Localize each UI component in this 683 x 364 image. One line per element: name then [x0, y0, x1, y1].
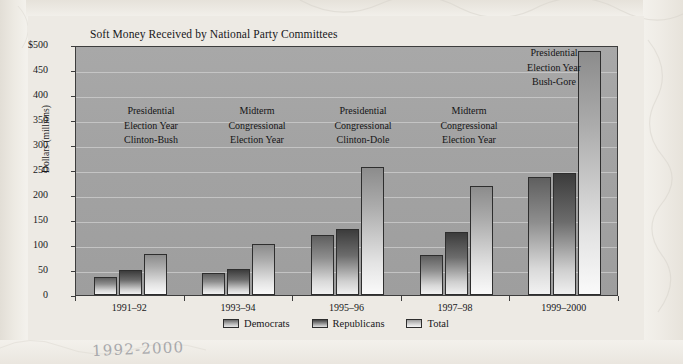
annotation-line: Election Year — [440, 133, 497, 148]
x-axis-tick-mark — [509, 296, 510, 301]
legend-swatch-total — [406, 319, 422, 328]
bar-democrats-1991-92 — [94, 277, 117, 295]
legend-label: Total — [427, 318, 448, 329]
scan-edge-left — [0, 0, 26, 364]
legend-swatch-republicans — [312, 319, 328, 328]
legend-item-democrats[interactable]: Democrats — [223, 318, 289, 329]
y-axis-tick-label: 0 — [0, 289, 48, 300]
x-axis-tick-label: 1995–96 — [329, 302, 364, 313]
y-axis-tick-label: 450 — [0, 64, 48, 75]
x-axis-tick-label: 1991–92 — [112, 302, 147, 313]
y-axis-tick-label: 50 — [0, 264, 48, 275]
x-axis-tick-mark — [75, 296, 76, 301]
gridline — [76, 172, 617, 173]
x-axis-tick-mark — [618, 296, 619, 301]
legend-swatch-democrats — [223, 319, 239, 328]
x-axis-tick-label: 1999–2000 — [541, 302, 586, 313]
bar-republicans-1993-94 — [227, 269, 250, 296]
y-axis-tick-label: 400 — [0, 89, 48, 100]
bar-republicans-1999-2000 — [553, 173, 576, 295]
annotation-line: Congressional — [228, 119, 285, 134]
bar-democrats-1995-96 — [311, 235, 334, 295]
y-axis-tick-label: 350 — [0, 114, 48, 125]
annotation-line: Bush-Gore — [527, 75, 581, 90]
y-axis-tick-label: 250 — [0, 164, 48, 175]
annotation-line: Clinton-Bush — [124, 133, 178, 148]
legend-label: Republicans — [333, 318, 385, 329]
y-axis-tick-label: $500 — [0, 39, 48, 50]
bar-democrats-1993-94 — [202, 273, 225, 296]
x-axis-tick-mark — [292, 296, 293, 301]
bar-democrats-1999-2000 — [528, 177, 551, 295]
annotation-line: Presidential — [527, 46, 581, 61]
annotation-line: Midterm — [228, 104, 285, 119]
annotation-1991-92: Presidential Election Year Clinton-Bush — [124, 104, 178, 148]
annotation-line: Congressional — [440, 119, 497, 134]
annotation-line: Congressional — [334, 119, 391, 134]
x-axis-tick-mark — [184, 296, 185, 301]
bar-republicans-1997-98 — [445, 232, 468, 295]
annotation-1993-94: Midterm Congressional Election Year — [228, 104, 285, 148]
legend-item-total[interactable]: Total — [406, 318, 448, 329]
annotation-1999-2000: Presidential Election Year Bush-Gore — [527, 46, 581, 90]
bar-total-1999-2000 — [578, 51, 601, 295]
bar-democrats-1997-98 — [420, 255, 443, 296]
bar-republicans-1991-92 — [119, 270, 142, 295]
gridline — [76, 97, 617, 98]
chart-legend: DemocratsRepublicansTotal — [28, 318, 644, 329]
bar-total-1993-94 — [252, 244, 275, 295]
bar-total-1997-98 — [470, 186, 493, 296]
y-axis-tick-label: 100 — [0, 239, 48, 250]
bar-total-1991-92 — [144, 254, 167, 296]
x-axis-tick-label: 1997–98 — [438, 302, 473, 313]
legend-label: Democrats — [244, 318, 289, 329]
bar-total-1995-96 — [361, 167, 384, 296]
y-axis-tick-label: 300 — [0, 139, 48, 150]
annotation-1997-98: Midterm Congressional Election Year — [440, 104, 497, 148]
annotation-line: Election Year — [124, 119, 178, 134]
annotation-line: Election Year — [527, 61, 581, 76]
legend-item-republicans[interactable]: Republicans — [312, 318, 385, 329]
chart-figure: Soft Money Received by National Party Co… — [28, 16, 644, 340]
annotation-line: Election Year — [228, 133, 285, 148]
y-axis-tick-label: 200 — [0, 189, 48, 200]
annotation-line: Clinton-Dole — [334, 133, 391, 148]
annotation-line: Midterm — [440, 104, 497, 119]
x-axis-tick-label: 1993–94 — [220, 302, 255, 313]
annotation-line: Presidential — [124, 104, 178, 119]
scan-edge-right — [643, 0, 683, 364]
y-axis-tick-label: 150 — [0, 214, 48, 225]
annotation-line: Presidential — [334, 104, 391, 119]
chart-title: Soft Money Received by National Party Co… — [90, 28, 338, 40]
x-axis-tick-mark — [401, 296, 402, 301]
bar-republicans-1995-96 — [336, 229, 359, 295]
annotation-1995-96: Presidential Congressional Clinton-Dole — [334, 104, 391, 148]
